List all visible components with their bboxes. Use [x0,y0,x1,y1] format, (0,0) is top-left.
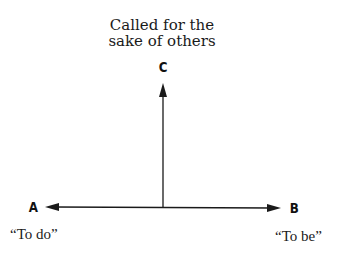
label-a: A [29,199,38,215]
label-b: B [290,200,299,216]
horizontal-line [55,207,272,208]
arrowhead-up-icon [159,83,167,97]
arrowhead-right-icon [267,204,281,212]
top-caption-line2: sake of others [82,33,242,49]
caption-b: “To be” [275,228,322,245]
top-caption-line1: Called for the [82,17,242,33]
label-c: C [159,59,168,75]
caption-a: “To do” [10,226,58,243]
arrowhead-left-icon [45,203,59,211]
